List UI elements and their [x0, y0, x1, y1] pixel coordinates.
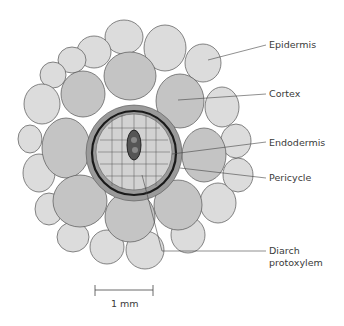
- diarch-protoxylem: [127, 130, 141, 160]
- scale-bar-label: 1 mm: [111, 298, 139, 309]
- label-cortex: Cortex: [269, 88, 300, 99]
- label-pericycle: Pericycle: [269, 172, 311, 183]
- label-epidermis: Epidermis: [269, 39, 316, 50]
- label-endodermis: Endodermis: [269, 137, 325, 148]
- scale-bar: [95, 285, 153, 296]
- label-protoxylem: protoxylem: [269, 257, 323, 268]
- label-diarch: Diarch: [269, 245, 300, 256]
